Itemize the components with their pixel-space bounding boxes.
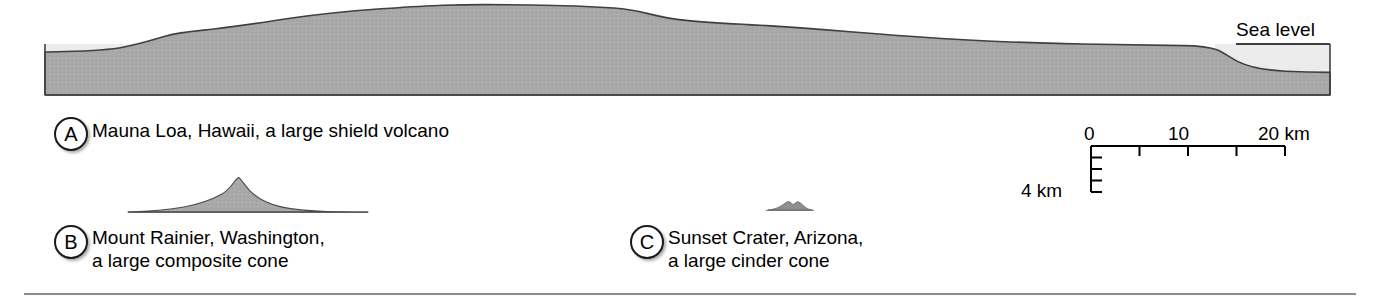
key-letter-a: A [54,117,88,151]
key-letter-b: B [54,225,88,259]
water-body-left [45,44,160,96]
profile-shield-mauna-loa [45,5,1330,96]
scale-label-10: 10 [1168,124,1189,143]
water-body-right [1215,44,1330,96]
cinder-cone-silhouette [768,202,812,210]
caption-mauna-loa: Mauna Loa, Hawaii, a large shield volcan… [92,119,449,142]
shield-volcano-silhouette [45,5,1330,95]
profile-cinder-sunset-crater [766,202,814,211]
caption-mount-rainier: Mount Rainier, Washington, a large compo… [92,226,325,272]
key-letter-c: C [630,225,664,259]
profile-composite-mount-rainier [128,178,368,213]
composite-cone-silhouette [128,178,368,212]
caption-sunset-crater: Sunset Crater, Arizona, a large cinder c… [668,226,863,272]
bottom-divider-rule [24,293,1356,295]
scale-label-20-km: 20 km [1258,124,1310,143]
caption-mount-rainier-line-2: a large composite cone [92,249,325,272]
volcano-profile-figure: Sea level A B C Mauna Loa, Hawaii, a lar… [0,0,1376,308]
scale-bar: 0 10 20 km 4 km [1020,124,1360,204]
key-letter-c-text: C [640,232,654,252]
key-letter-b-text: B [64,232,77,252]
caption-sunset-crater-line-2: a large cinder cone [668,249,863,272]
caption-mount-rainier-line-1: Mount Rainier, Washington, [92,226,325,249]
key-letter-a-text: A [64,124,77,144]
caption-sunset-crater-line-1: Sunset Crater, Arizona, [668,226,863,249]
sea-level-label: Sea level [1236,20,1315,39]
caption-mauna-loa-line-1: Mauna Loa, Hawaii, a large shield volcan… [92,119,449,142]
scale-label-vertical-4-km: 4 km [1021,181,1062,200]
scale-label-0: 0 [1084,124,1095,143]
